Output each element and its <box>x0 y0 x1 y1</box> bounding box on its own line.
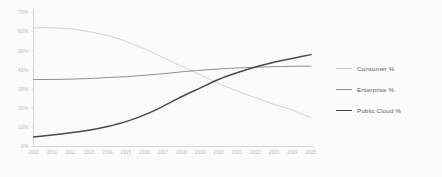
legend-label: Public Cloud % <box>357 107 401 114</box>
legend-color-swatch <box>336 68 352 69</box>
chart-container: 0%10%20%30%40%50%60%70% 2010201120122013… <box>0 0 442 177</box>
legend-label: Consumer % <box>357 65 394 72</box>
legend-label: Enterprise % <box>357 86 394 93</box>
legend-item[interactable]: Public Cloud % <box>336 100 440 121</box>
series-line-enterprise <box>34 66 312 79</box>
series-lines <box>34 28 312 137</box>
legend-item[interactable]: Consumer % <box>336 58 440 79</box>
axis-lines <box>31 9 313 147</box>
legend-color-swatch <box>336 110 352 112</box>
legend-color-swatch <box>336 89 352 90</box>
legend-item[interactable]: Enterprise % <box>336 79 440 100</box>
chart-legend: Consumer %Enterprise %Public Cloud % <box>336 58 440 121</box>
